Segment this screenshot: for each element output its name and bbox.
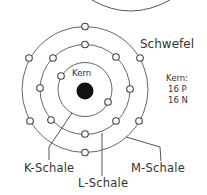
electron-m [27,118,34,125]
electron-l [82,131,89,138]
m-shell-leader [126,137,161,161]
top-arc [92,0,170,11]
electron-l [37,85,44,92]
electron-l [82,41,89,48]
electron-l [48,117,55,124]
electron-l [113,118,120,125]
electron-m [136,118,143,125]
nucleus [77,83,94,100]
nucleus-label: Kern [72,69,91,78]
l-shell-label: L-Schale [78,178,128,190]
electron-k [58,73,65,80]
nucleus-info-neutrons: 16 N [166,95,188,106]
electron-l [113,54,120,61]
electron-k [105,99,112,106]
element-name: Schwefel [140,38,194,50]
electron-l [127,86,134,93]
electron-m [82,23,89,30]
nucleus-info-protons: 16 P [166,84,188,95]
nucleus-info-heading: Kern: [166,73,188,84]
k-shell-label: K-Schale [24,163,74,175]
electron-m [26,55,33,62]
electron-l [50,55,57,62]
nucleus-info: Kern: 16 P 16 N [166,73,188,106]
electron-m [82,149,89,156]
m-shell-label: M-Schale [131,163,185,175]
electron-m [137,55,144,62]
